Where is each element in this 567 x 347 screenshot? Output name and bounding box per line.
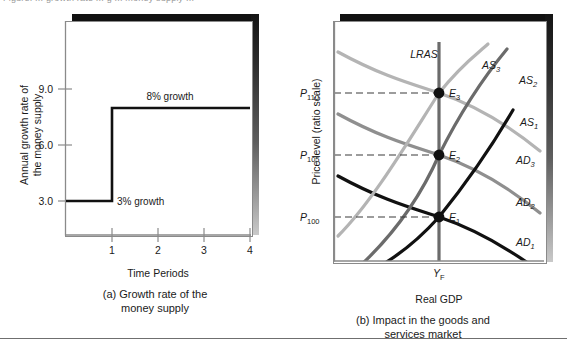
panel-a-x-ticks: 1 2 3 4 <box>109 228 253 256</box>
panel-b-p110-base: P <box>300 87 307 99</box>
panel-b-p100-sub: 100 <box>307 217 320 226</box>
panel-b-label-as2: AS2 <box>518 74 538 89</box>
panel-a-y-axis-label: Annual growth rate of the money supply <box>18 60 43 210</box>
panel-b-point-e3 <box>434 88 445 99</box>
panel-b-label-ad3: AD3 <box>515 154 536 169</box>
panel-b-as3-sub: 3 <box>496 65 501 74</box>
panel-b-as1-sub: 1 <box>534 122 538 131</box>
panel-b-x-axis-label: Real GDP <box>333 293 545 305</box>
figure-container: Figure: ... growth rate ... g ... money … <box>0 0 567 347</box>
panel-b-label-lras: LRAS <box>410 48 437 60</box>
panel-a-caption-line2: money supply <box>30 302 280 316</box>
panel-a-caption-line1: (a) Growth rate of the <box>30 288 280 302</box>
panel-b-ad3-base: AD <box>515 154 531 166</box>
panel-b-ad1-base: AD <box>515 236 531 248</box>
panel-b-e2-sub: 2 <box>456 155 460 164</box>
panel-a-caption: (a) Growth rate of the money supply <box>30 288 280 315</box>
clipped-header-label: Figure: ... growth rate ... g ... money … <box>0 0 567 4</box>
panel-b-asad-market: E3 E2 E1 P110 P105 P100 <box>292 14 560 334</box>
panel-b-caption: (b) Impact in the goods and services mar… <box>317 314 529 341</box>
panel-a-xtick-3: 3 <box>201 244 207 256</box>
panel-b-svg: E3 E2 E1 P110 P105 P100 <box>292 14 560 314</box>
panel-b-label-ad1: AD1 <box>515 236 535 251</box>
clipped-header-text: Figure: ... growth rate ... g ... money … <box>0 0 567 4</box>
panel-a-xtick-2: 2 <box>155 244 161 256</box>
panel-b-y-axis-label: Price level (ratio scale) <box>310 49 323 214</box>
panel-a-growth-rate: 9.0 6.0 3.0 1 2 3 4 3% growth 8% growth <box>10 14 260 334</box>
panel-b-label-ad2: AD2 <box>515 196 536 211</box>
panel-b-as1-base: AS <box>519 116 534 128</box>
panel-b-curve-labels: LRAS AS3 AS2 AS1 AD3 AD2 AD1 <box>410 48 538 251</box>
panel-b-ad3-sub: 3 <box>531 160 536 169</box>
panel-b-label-as1: AS1 <box>519 116 538 131</box>
panel-b-yf-sub: F <box>440 273 445 282</box>
panel-a-y-ticks: 9.0 6.0 3.0 <box>38 83 72 207</box>
panel-b-as3-base: AS <box>481 59 496 71</box>
panel-a-y-axis-label-line2: the money supply <box>31 60 44 210</box>
panel-b-ad2-base: AD <box>515 196 531 208</box>
panel-a-xtick-1: 1 <box>109 244 115 256</box>
panel-a-xtick-4: 4 <box>247 244 253 256</box>
panel-a-annotation-low: 3% growth <box>117 196 164 207</box>
panel-b-caption-line1: (b) Impact in the goods and <box>317 314 529 328</box>
panel-a-y-axis-label-line1: Annual growth rate of <box>18 60 31 210</box>
panel-b-point-e2 <box>434 150 445 161</box>
panel-a-annotation-high: 8% growth <box>146 91 193 102</box>
panel-a-svg: 9.0 6.0 3.0 1 2 3 4 3% growth 8% growth <box>10 14 260 289</box>
panel-b-equilibrium-labels: E3 E2 E1 <box>449 87 460 226</box>
panel-b-as2-sub: 2 <box>532 80 538 89</box>
panel-a-step-series <box>66 108 250 201</box>
panel-b-p100-base: P <box>300 211 307 223</box>
panel-b-e3-sub: 3 <box>456 93 460 102</box>
panel-b-point-e1 <box>434 212 445 223</box>
bottom-horizontal-rule <box>0 338 567 339</box>
panel-b-x-tick-label: YF <box>433 267 445 282</box>
panel-b-as2-base: AS <box>518 74 533 86</box>
panel-a-x-axis-label: Time Periods <box>65 267 251 279</box>
svg-text:YF: YF <box>433 267 445 282</box>
panel-b-ad1-sub: 1 <box>531 242 535 251</box>
panel-b-e1-sub: 1 <box>456 217 460 226</box>
panel-b-p105-base: P <box>300 149 307 161</box>
panel-b-ad2-sub: 2 <box>530 202 536 211</box>
